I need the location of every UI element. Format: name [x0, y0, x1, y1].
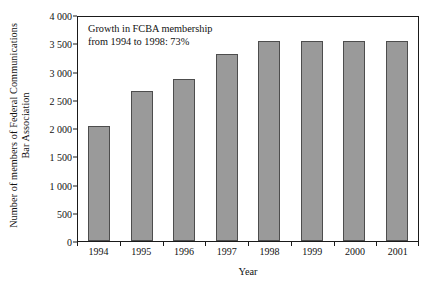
bar-1998[interactable]	[258, 41, 280, 241]
bar-slot	[376, 17, 419, 241]
bar-slot	[163, 17, 206, 241]
y-axis-tick-label: 1 500	[50, 152, 73, 163]
bar-1996[interactable]	[173, 79, 195, 241]
bar-1995[interactable]	[131, 91, 153, 241]
x-axis-tick-label: 2001	[376, 246, 419, 262]
y-axis-tick-label: 3 500	[50, 39, 73, 50]
y-axis-tick-label: 2 500	[50, 95, 73, 106]
bar-slot	[121, 17, 164, 241]
bar-1999[interactable]	[301, 41, 323, 241]
x-axis-tick-label: 1997	[205, 246, 248, 262]
bar-slot	[291, 17, 334, 241]
bar-chart-figure: Number of members of Federal Communicati…	[0, 0, 437, 294]
bar-slot	[333, 17, 376, 241]
y-axis-tick-labels: 05001 0001 5002 0002 5003 0003 5004 000	[34, 16, 77, 242]
y-axis-tick-label: 0	[67, 237, 72, 248]
bar-1997[interactable]	[216, 54, 238, 241]
y-axis-tick-label: 2 000	[50, 124, 73, 135]
bar-slot	[248, 17, 291, 241]
bar-slot	[78, 17, 121, 241]
bar-2001[interactable]	[386, 41, 408, 241]
bar-2000[interactable]	[343, 41, 365, 241]
y-axis-tick-label: 1 000	[50, 180, 73, 191]
y-axis-title-line-2: Bar Association	[20, 23, 32, 228]
bar-slot	[206, 17, 249, 241]
x-axis-tick-label: 1998	[248, 246, 291, 262]
x-axis-tick-label: 2000	[334, 246, 377, 262]
x-axis-tick-label: 1995	[120, 246, 163, 262]
x-axis-tick-label: 1994	[77, 246, 120, 262]
y-axis-title-line-1: Number of members of Federal Communicati…	[8, 23, 20, 228]
y-axis-tick-label: 4 000	[50, 11, 73, 22]
bar-1994[interactable]	[88, 126, 110, 241]
plot-area: Growth in FCBA membership from 1994 to 1…	[77, 16, 419, 242]
y-axis-tick-label: 3 000	[50, 67, 73, 78]
bar-series	[78, 17, 418, 241]
x-axis-tick-label: 1996	[163, 246, 206, 262]
x-axis-tick-labels: 19941995199619971998199920002001	[77, 246, 419, 262]
x-axis-title: Year	[77, 266, 419, 277]
y-axis-tick-label: 500	[57, 208, 72, 219]
x-axis-tick-label: 1999	[291, 246, 334, 262]
